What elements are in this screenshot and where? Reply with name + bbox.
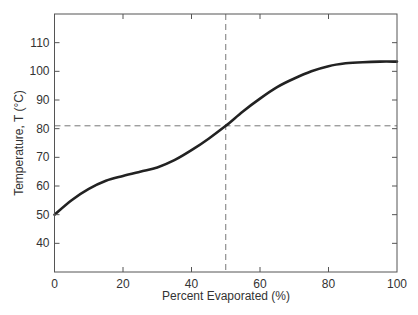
y-tick-label: 100 xyxy=(29,64,49,78)
y-tick-label: 50 xyxy=(36,208,50,222)
y-tick-label: 60 xyxy=(36,179,50,193)
reference-lines xyxy=(55,14,398,272)
y-tick-label: 40 xyxy=(36,236,50,250)
y-tick-label: 90 xyxy=(36,93,50,107)
x-tick-label: 80 xyxy=(322,277,336,291)
x-axis-ticks: 020406080100 xyxy=(51,14,407,291)
y-tick-label: 110 xyxy=(30,36,49,50)
distillation-chart: 020406080100 405060708090100110 Percent … xyxy=(0,0,418,315)
y-tick-label: 70 xyxy=(36,150,50,164)
y-axis-title: Temperature, T (°C) xyxy=(12,90,26,196)
x-tick-label: 20 xyxy=(116,277,130,291)
y-axis-ticks: 405060708090100110 xyxy=(29,36,397,251)
x-axis-title: Percent Evaporated (%) xyxy=(162,289,290,303)
plot-frame xyxy=(55,14,398,272)
x-tick-label: 0 xyxy=(51,277,58,291)
x-tick-label: 100 xyxy=(387,277,407,291)
y-tick-label: 80 xyxy=(36,122,50,136)
